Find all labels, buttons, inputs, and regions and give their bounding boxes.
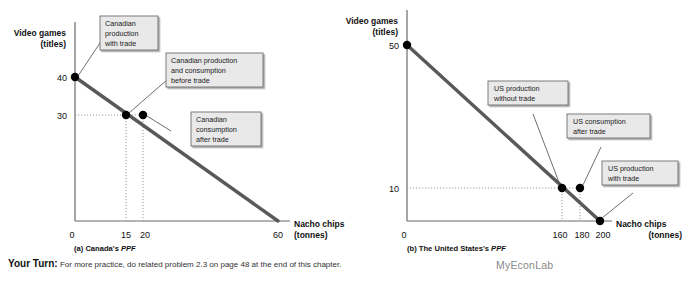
canada-point-consumption-after-trade bbox=[139, 111, 147, 119]
us-xtick-180: 180 bbox=[574, 230, 589, 240]
us-x-axis-label-line1: Nacho chips bbox=[616, 219, 667, 229]
canada-origin-label: 0 bbox=[69, 230, 74, 240]
callout-line-2: without trade bbox=[493, 94, 535, 103]
us-y-axis-label-line2: (titles) bbox=[373, 27, 399, 37]
us-point-production-without-trade bbox=[558, 184, 566, 192]
canada-point-production-with-trade bbox=[71, 73, 79, 81]
callout-canadian-consumption-after-trade: Canadian consumption after trade bbox=[191, 112, 261, 146]
callout-canadian-production-and-consumption-before-trade: Canadian production and consumption befo… bbox=[166, 53, 263, 87]
callout-canadian-production-with-trade: Canadian production with trade bbox=[100, 16, 158, 50]
ppf-figure: Video games (titles) Nacho chips (tonnes… bbox=[0, 0, 688, 284]
myeconlab-brand: MyEconLab bbox=[496, 259, 553, 271]
callout-line-1: Canadian bbox=[196, 115, 227, 124]
callout-line-2: and consumption bbox=[171, 66, 226, 75]
canada-y-axis-label-line1: Video games bbox=[14, 28, 67, 38]
callout-line-3: with trade bbox=[104, 39, 136, 48]
canada-caption-prefix: (a) Canada's bbox=[74, 244, 121, 253]
us-xtick-200: 200 bbox=[595, 230, 610, 240]
canada-ppf-line bbox=[75, 77, 278, 221]
callout-line-3: after trade bbox=[196, 135, 229, 144]
callout-line-2: production bbox=[105, 29, 139, 38]
us-caption-prefix: (b) The United States's bbox=[407, 244, 491, 253]
us-point-consumption-after-trade bbox=[576, 184, 584, 192]
your-turn-text: For more practice, do related problem 2.… bbox=[60, 260, 342, 269]
callout-line-1: US production bbox=[494, 84, 540, 93]
us-origin-label: 0 bbox=[401, 230, 406, 240]
us-caption-italic: PPF bbox=[491, 244, 506, 253]
us-point-ppf-intercept bbox=[403, 41, 411, 49]
canada-xtick-60: 60 bbox=[273, 230, 283, 240]
us-leader-consumption-after-trade bbox=[583, 147, 601, 185]
callout-line-1: Canadian production bbox=[171, 56, 237, 65]
callout-us-production-with-trade: US production with trade bbox=[602, 161, 678, 185]
callout-line-1: US production bbox=[608, 164, 654, 173]
us-xtick-160: 160 bbox=[552, 230, 567, 240]
us-panel-caption: (b) The United States's PPF bbox=[407, 244, 506, 253]
panel-united-states: Video games (titles) Nacho chips (tonnes… bbox=[346, 10, 682, 253]
footer: Your Turn: For more practice, do related… bbox=[8, 258, 680, 269]
us-x-axis-label-line2: (tonnes) bbox=[648, 230, 682, 240]
us-ytick-50: 50 bbox=[389, 41, 399, 51]
canada-ytick-40: 40 bbox=[57, 73, 67, 83]
canada-leader-before-trade bbox=[129, 79, 168, 113]
callout-line-3: before trade bbox=[171, 76, 210, 85]
callout-line-2: after trade bbox=[573, 127, 606, 136]
canada-xtick-20: 20 bbox=[140, 230, 150, 240]
callout-line-1: Canadian bbox=[105, 19, 136, 28]
callout-us-production-without-trade: US production without trade bbox=[488, 81, 568, 105]
your-turn-label: Your Turn: bbox=[8, 258, 58, 269]
us-ytick-10: 10 bbox=[389, 184, 399, 194]
canada-xtick-15: 15 bbox=[121, 230, 131, 240]
canada-x-axis-label-line2: (tonnes) bbox=[294, 230, 328, 240]
us-y-axis-label-line1: Video games bbox=[346, 16, 399, 26]
canada-x-axis-label-line1: Nacho chips bbox=[294, 219, 345, 229]
callout-line-2: with trade bbox=[607, 174, 639, 183]
us-leader-production-with-trade bbox=[602, 193, 633, 218]
canada-point-production-consumption-before-trade bbox=[122, 111, 130, 119]
canada-y-axis-label-line2: (titles) bbox=[41, 39, 67, 49]
callout-line-1: US consumption bbox=[573, 117, 626, 126]
callout-us-consumption-after-trade: US consumption after trade bbox=[567, 114, 650, 138]
canada-panel-caption: (a) Canada's PPF bbox=[74, 244, 136, 253]
callout-line-2: consumption bbox=[196, 125, 237, 134]
ppf-charts-svg: Video games (titles) Nacho chips (tonnes… bbox=[0, 0, 688, 284]
canada-caption-italic: PPF bbox=[121, 244, 136, 253]
panel-canada: Video games (titles) Nacho chips (tonnes… bbox=[14, 16, 345, 253]
us-point-production-with-trade bbox=[596, 217, 604, 225]
canada-ytick-30: 30 bbox=[57, 111, 67, 121]
